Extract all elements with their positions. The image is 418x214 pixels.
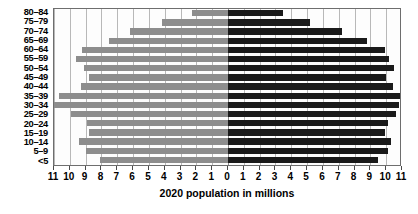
bar-row [54,137,400,146]
bar-left [71,111,228,117]
x-axis-tick-label: 3 [177,170,183,184]
x-axis-tick-label: 5 [303,170,309,184]
y-axis-label: <5 [0,157,50,166]
bar-row [54,82,400,91]
bar-right [228,65,394,71]
x-axis-tick-label: 5 [145,170,151,184]
bar-left [89,74,228,80]
bar-row [54,9,400,18]
x-axis-tick-label: 6 [319,170,325,184]
bar-left [89,129,228,135]
x-axis-tick-label: 8 [98,170,104,184]
x-axis-tick-label: 10 [380,170,391,184]
bar-left [87,120,228,126]
x-axis-tick-label: 10 [63,170,74,184]
bar-right [228,28,342,34]
bar-row [54,18,400,27]
bar-row [54,156,400,165]
x-axis-tick-label: 4 [287,170,293,184]
x-axis-tick-label: 11 [48,170,59,184]
y-axis-age-group-labels: 80–8475–7970–7465–6960–6455–5950–5445–49… [0,8,50,166]
bar-left [79,138,228,144]
plot-area [53,8,401,166]
bar-left [82,47,228,53]
bar-right [228,10,283,16]
bar-left [84,65,228,71]
bar-right [228,111,396,117]
bar-right [228,102,399,108]
bar-left [76,56,228,62]
bar-left [192,10,228,16]
bar-left [130,28,228,34]
x-axis-tick-labels: 111098765432101234567891011 [53,170,401,184]
x-axis-tick-label: 3 [272,170,278,184]
bar-row [54,92,400,101]
bar-right [228,47,385,53]
bar-row [54,73,400,82]
bar-row [54,46,400,55]
population-pyramid-chart: 80–8475–7970–7465–6960–6455–5950–5445–49… [0,0,418,214]
bar-rows [54,9,400,165]
bar-right [228,74,386,80]
bar-right [228,56,389,62]
x-axis-tick-label: 11 [396,170,407,184]
bar-row [54,119,400,128]
x-axis-tick-label: 1 [240,170,246,184]
bar-row [54,147,400,156]
bar-left [162,19,228,25]
x-axis-tick-label: 2 [256,170,262,184]
bar-right [228,120,388,126]
bar-left [100,157,228,163]
bar-left [109,38,228,44]
x-axis-tick-label: 8 [351,170,357,184]
bar-row [54,64,400,73]
bar-row [54,27,400,36]
x-axis-tick-label: 9 [367,170,373,184]
bar-right [228,148,388,154]
x-axis-tick-label: 0 [224,170,230,184]
x-axis-tick-label: 7 [113,170,119,184]
bar-right [228,129,385,135]
bar-right [228,138,391,144]
x-axis-title: 2020 population in millions [53,187,401,199]
bar-row [54,128,400,137]
bar-right [228,93,401,99]
bar-left [86,148,228,154]
bar-left [81,83,228,89]
bar-row [54,110,400,119]
x-axis-tick-label: 9 [82,170,88,184]
bar-row [54,37,400,46]
x-axis-tick-label: 7 [335,170,341,184]
x-axis-tick-label: 4 [161,170,167,184]
bar-left [59,93,228,99]
bar-row [54,55,400,64]
x-axis-tick-label: 1 [208,170,214,184]
bar-left [54,102,228,108]
bar-right [228,19,310,25]
bar-right [228,83,393,89]
bar-row [54,101,400,110]
bar-right [228,157,378,163]
x-axis-tick-label: 6 [129,170,135,184]
x-axis-tick-label: 2 [193,170,199,184]
bar-right [228,38,367,44]
